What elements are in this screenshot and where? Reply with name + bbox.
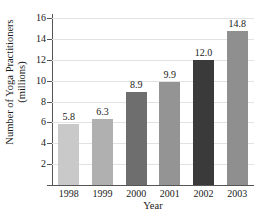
bar-body xyxy=(159,82,180,185)
gridline xyxy=(52,81,254,82)
y-axis-tick xyxy=(47,143,52,144)
bar: 9.9 xyxy=(159,82,180,185)
y-axis-tick-label: 12 xyxy=(26,55,46,65)
bar-value-label: 8.9 xyxy=(130,80,143,90)
bar-value-label: 12.0 xyxy=(195,48,213,58)
y-axis-tick xyxy=(47,60,52,61)
bar-body xyxy=(193,60,214,185)
x-axis-title: Year xyxy=(52,200,254,211)
gridline xyxy=(52,122,254,123)
bar-value-label: 14.8 xyxy=(228,19,246,29)
y-axis-tick-label: 8 xyxy=(26,97,46,107)
gridline xyxy=(52,60,254,61)
bar-value-label: 6.3 xyxy=(96,107,109,117)
plot-area: 246810121416 5.86.38.99.912.014.8 199819… xyxy=(52,14,254,186)
gridline xyxy=(52,39,254,40)
gridline xyxy=(52,102,254,103)
y-axis-tick xyxy=(47,39,52,40)
bar-body xyxy=(126,92,147,185)
bar-chart: Number of Yoga Practitioners (millions) … xyxy=(0,0,264,219)
bar: 8.9 xyxy=(126,92,147,185)
gridline xyxy=(52,18,254,19)
y-axis-tick xyxy=(47,185,52,186)
y-axis-tick xyxy=(47,102,52,103)
y-axis-tick-label: 10 xyxy=(26,76,46,86)
bar-value-label: 9.9 xyxy=(164,70,177,80)
x-axis-tick-label: 2003 xyxy=(217,189,257,199)
x-axis-line xyxy=(52,185,254,186)
gridline xyxy=(52,164,254,165)
y-axis-tick xyxy=(47,164,52,165)
y-axis-tick-label: 16 xyxy=(26,13,46,23)
y-axis-tick xyxy=(47,122,52,123)
bar-body xyxy=(92,119,113,185)
bar: 5.8 xyxy=(58,124,79,185)
bar: 12.0 xyxy=(193,60,214,185)
bar-value-label: 5.8 xyxy=(63,112,76,122)
bar-body xyxy=(227,31,248,185)
y-axis-title-line-1: Number of Yoga Practitioners xyxy=(4,2,16,162)
bar: 6.3 xyxy=(92,119,113,185)
bar: 14.8 xyxy=(227,31,248,185)
bar-body xyxy=(58,124,79,185)
y-axis-tick-label: 4 xyxy=(26,138,46,148)
y-axis-tick xyxy=(47,18,52,19)
gridline xyxy=(52,143,254,144)
y-axis-tick-label: 6 xyxy=(26,117,46,127)
y-axis-tick-label: 14 xyxy=(26,34,46,44)
y-axis-tick-label: 2 xyxy=(26,159,46,169)
y-axis-tick xyxy=(47,81,52,82)
y-axis-title: Number of Yoga Practitioners (millions) xyxy=(4,2,28,162)
